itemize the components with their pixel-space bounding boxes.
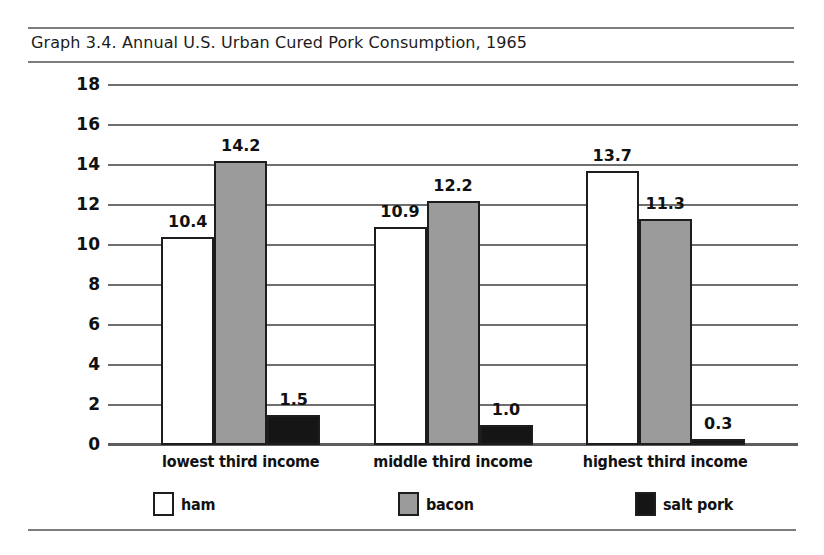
y-axis-tick-label: 14 — [52, 154, 100, 174]
bar-salt-pork-2 — [692, 439, 745, 445]
legend-label: salt pork — [663, 495, 733, 514]
y-axis-tick-label: 16 — [52, 114, 100, 134]
chart-figure: Graph 3.4. Annual U.S. Urban Cured Pork … — [0, 0, 824, 555]
bottom-rule — [28, 529, 796, 531]
y-axis-tick-label: 2 — [52, 394, 100, 414]
legend-label: bacon — [426, 495, 474, 514]
bar-value-label: 14.2 — [204, 136, 277, 155]
bar-value-label: 10.4 — [151, 212, 224, 231]
x-axis-category-label: highest third income — [546, 452, 785, 471]
legend-item-ham: ham — [153, 492, 215, 516]
legend-swatch-bacon — [398, 492, 419, 516]
bar-value-label: 13.7 — [576, 146, 649, 165]
gridline — [108, 164, 798, 166]
bar-value-label: 11.3 — [629, 194, 702, 213]
bar-bacon-2 — [639, 219, 692, 445]
chart-title: Graph 3.4. Annual U.S. Urban Cured Pork … — [31, 33, 527, 52]
bar-value-label: 1.5 — [257, 390, 330, 409]
bar-value-label: 10.9 — [364, 202, 437, 221]
y-axis-tick-label: 8 — [52, 274, 100, 294]
y-axis-tick-label: 10 — [52, 234, 100, 254]
legend-item-salt-pork: salt pork — [635, 492, 733, 516]
x-axis-category-label: lowest third income — [121, 452, 360, 471]
legend-item-bacon: bacon — [398, 492, 474, 516]
bar-value-label: 0.3 — [682, 414, 755, 433]
bar-salt-pork-0 — [267, 415, 320, 445]
gridline — [108, 84, 798, 86]
legend-swatch-salt-pork — [635, 492, 656, 516]
bar-ham-0 — [161, 237, 214, 445]
top-rule — [28, 27, 794, 29]
y-axis-tick-label: 18 — [52, 74, 100, 94]
bar-value-label: 12.2 — [417, 176, 490, 195]
legend-swatch-ham — [153, 492, 174, 516]
gridline — [108, 124, 798, 126]
bar-ham-1 — [374, 227, 427, 445]
title-underline-rule — [28, 61, 794, 63]
x-axis-category-label: middle third income — [334, 452, 573, 471]
bar-value-label: 1.0 — [470, 400, 543, 419]
y-axis-tick-label: 0 — [52, 434, 100, 454]
y-axis-tick-label: 6 — [52, 314, 100, 334]
y-axis-tick-label: 4 — [52, 354, 100, 374]
chart-legend: hambaconsalt pork — [108, 492, 798, 522]
legend-label: ham — [181, 495, 215, 514]
bar-salt-pork-1 — [480, 425, 533, 445]
y-axis-tick-label: 12 — [52, 194, 100, 214]
